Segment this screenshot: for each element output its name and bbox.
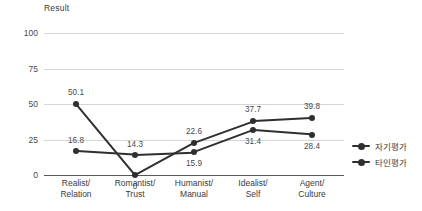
- legend-item-label: 타인평가: [375, 156, 407, 168]
- legend-marker-icon: [352, 158, 370, 166]
- data-point-label: 22.6: [186, 127, 202, 136]
- data-point-marker: [73, 148, 79, 154]
- data-point-marker: [309, 132, 315, 138]
- y-tick-label-50: 50: [12, 99, 38, 109]
- data-point-marker: [73, 101, 79, 107]
- legend-item-label: 자기평가: [375, 140, 407, 152]
- y-tick-label-100: 100: [12, 28, 38, 38]
- series-line-segment: [253, 129, 312, 135]
- data-point-marker: [309, 115, 315, 121]
- series-line-segment: [253, 117, 312, 122]
- x-category-label: Agent/Culture: [274, 178, 350, 199]
- data-point-label: 50.1: [68, 88, 84, 97]
- legend-marker-icon: [352, 142, 370, 150]
- data-point-marker: [132, 152, 138, 158]
- data-point-marker: [191, 149, 197, 155]
- y-tick-label-0: 0: [12, 170, 38, 180]
- data-point-marker: [250, 127, 256, 133]
- result-line-chart: Result 16.814.315.931.428.450.1022.637.7…: [0, 0, 422, 211]
- y-tick-label-75: 75: [12, 64, 38, 74]
- legend-item[interactable]: 타인평가: [352, 154, 407, 170]
- data-point-label: 31.4: [245, 137, 261, 146]
- data-point-label: 15.9: [186, 159, 202, 168]
- plot-area: 16.814.315.931.428.450.1022.637.739.8: [44, 33, 344, 175]
- legend-item[interactable]: 자기평가: [352, 138, 407, 154]
- x-axis-category-labels: Realist/RelationRomantist/TrustHumanist/…: [44, 178, 344, 208]
- data-point-marker: [250, 118, 256, 124]
- data-point-label: 39.8: [304, 102, 320, 111]
- gridline-75: [44, 69, 344, 70]
- y-tick-label-25: 25: [12, 135, 38, 145]
- data-point-label: 37.7: [245, 105, 261, 114]
- series-line-segment: [135, 151, 194, 155]
- data-point-label: 28.4: [304, 142, 320, 151]
- data-point-marker: [191, 140, 197, 146]
- gridline-50: [44, 104, 344, 105]
- chart-title: Result: [44, 3, 69, 13]
- data-point-label: 16.8: [68, 136, 84, 145]
- x-axis-line: [44, 175, 344, 176]
- series-line-segment: [76, 150, 135, 156]
- gridline-100: [44, 33, 344, 34]
- data-point-label: 14.3: [127, 140, 143, 149]
- chart-legend: 자기평가타인평가: [352, 138, 407, 170]
